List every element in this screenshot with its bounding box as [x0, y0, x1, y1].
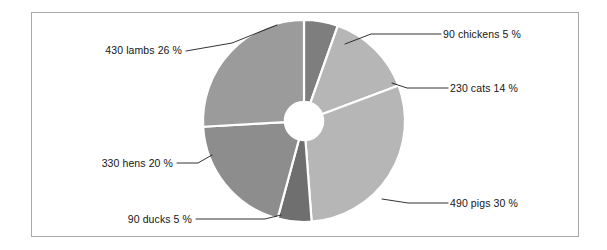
slice-label-pigs: 490 pigs 30 %	[450, 197, 518, 209]
leader-line-cats	[392, 83, 448, 88]
slice-label-chickens: 90 chickens 5 %	[443, 28, 521, 40]
pie-chart-figure: 90 chickens 5 % 230 cats 14 % 490 pigs 3…	[0, 0, 607, 250]
slice-label-ducks: 90 ducks 5 %	[82, 213, 192, 225]
slice-label-cats: 230 cats 14 %	[450, 82, 518, 94]
donut-slice-lambs[interactable]	[203, 20, 304, 127]
donut-slices-group	[203, 20, 405, 222]
slice-label-hens: 330 hens 20 %	[55, 157, 173, 169]
slice-label-lambs: 430 lambs 26 %	[60, 44, 182, 56]
leader-line-pigs	[382, 199, 448, 203]
leader-line-hens	[177, 155, 212, 163]
